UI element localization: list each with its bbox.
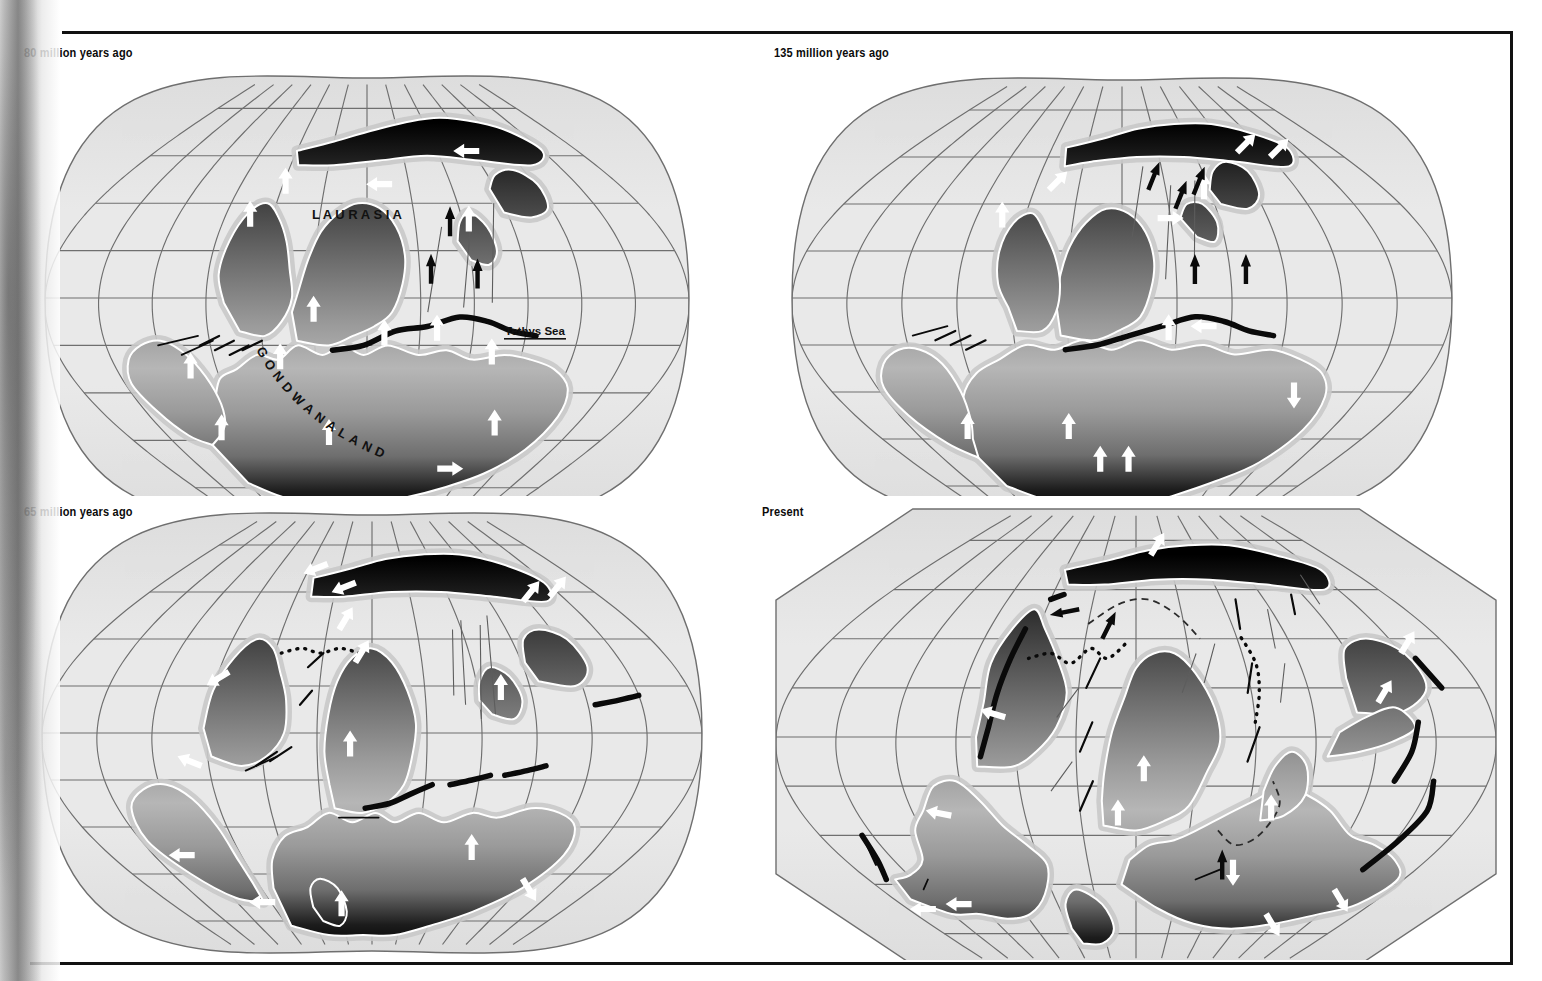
panel-135ma: 135 million years ago <box>772 46 1472 496</box>
tethys-sea-label: Tethys Sea <box>505 325 565 337</box>
panel-label-65ma: 65 million years ago <box>24 505 133 519</box>
panel-label-80ma: 80 million years ago <box>24 46 133 60</box>
panel-80ma: 80 million years ago L A U R A S I AGOND… <box>22 46 712 496</box>
laurasia-label: L A U R A S I A <box>312 207 402 222</box>
panel-label-135ma: 135 million years ago <box>774 46 889 60</box>
panel-label-present: Present <box>762 505 804 519</box>
panel-present: Present <box>760 505 1512 960</box>
tethys-sea-label-underline <box>504 338 566 340</box>
panel-65ma: 65 million years ago <box>22 505 722 960</box>
frame-rule-right <box>1510 31 1513 965</box>
frame-rule-bottom <box>30 962 1513 965</box>
frame-rule-top <box>62 31 1513 34</box>
